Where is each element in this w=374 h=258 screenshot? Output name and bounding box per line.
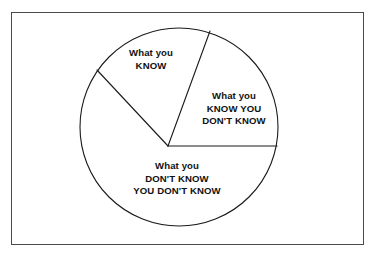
slice-label-know: What you KNOW <box>103 47 199 72</box>
slice-label-unknown-unknown: What you DON'T KNOW YOU DON'T KNOW <box>110 160 244 198</box>
pie-diagram <box>0 0 374 258</box>
slice-label-unknown-unknown-line-3: YOU DON'T KNOW <box>110 185 244 198</box>
slice-label-know-line-1: What you <box>103 47 199 60</box>
slice-label-know-line-2: KNOW <box>103 60 199 73</box>
slice-label-unknown-unknown-line-2: DON'T KNOW <box>110 173 244 186</box>
slice-label-known-unknown-line-2: KNOW YOU <box>186 103 282 116</box>
slice-label-known-unknown: What you KNOW YOU DON'T KNOW <box>186 90 282 128</box>
page-root: What you KNOW What you KNOW YOU DON'T KN… <box>0 0 374 258</box>
slice-label-known-unknown-line-3: DON'T KNOW <box>186 115 282 128</box>
slice-label-unknown-unknown-line-1: What you <box>110 160 244 173</box>
slice-label-known-unknown-line-1: What you <box>186 90 282 103</box>
